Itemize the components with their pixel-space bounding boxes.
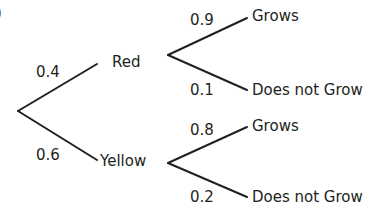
outcome-yellow: Yellow: [100, 154, 146, 169]
outcome-red: Red: [112, 55, 141, 70]
prob-red-grows: 0.9: [190, 13, 214, 28]
prob-red-not-grow: 0.1: [190, 83, 214, 98]
outcome-red-grows: Grows: [252, 9, 299, 24]
outcome-yellow-not-grow: Does not Grow: [252, 190, 363, 205]
outcome-red-not-grow: Does not Grow: [252, 83, 363, 98]
prob-yellow: 0.6: [36, 148, 60, 163]
outcome-yellow-grows: Grows: [252, 119, 299, 134]
prob-yellow-grows: 0.8: [190, 123, 214, 138]
corner-mark: ): [0, 6, 2, 21]
prob-yellow-not-grow: 0.2: [190, 190, 214, 205]
tree-branches: [0, 0, 386, 208]
prob-red: 0.4: [36, 65, 60, 80]
